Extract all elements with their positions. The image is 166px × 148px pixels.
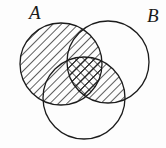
- venn-diagram-figure: A B: [0, 0, 166, 148]
- set-label-b: B: [147, 5, 159, 26]
- set-label-a: A: [27, 2, 41, 23]
- venn-diagram-canvas: A B: [0, 0, 166, 148]
